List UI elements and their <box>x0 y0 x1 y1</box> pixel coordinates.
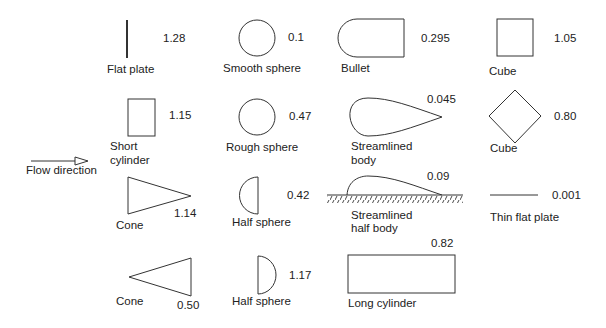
streamlined-body-value: 0.045 <box>427 93 456 106</box>
half-sphere-2-value: 1.17 <box>289 269 311 282</box>
cube-2-value: 0.80 <box>554 110 576 123</box>
smooth-sphere-value: 0.1 <box>288 31 304 44</box>
streamlined-half-body-label-line2: half body <box>351 222 398 235</box>
flat-plate-label: Flat plate <box>107 63 154 76</box>
flow-direction-label: Flow direction <box>26 164 97 177</box>
thin-flat-plate-label: Thin flat plate <box>490 211 559 224</box>
rough-sphere-label: Rough sphere <box>226 141 298 154</box>
cone-2-label: Cone <box>116 295 144 308</box>
streamlined-half-body-value: 0.09 <box>427 170 449 183</box>
short-cylinder-shape <box>128 99 155 136</box>
streamlined-half-body-label-line1: Streamlined <box>351 209 412 222</box>
short-cylinder-value: 1.15 <box>169 109 191 122</box>
streamlined-body-label-line1: Streamlined <box>351 140 412 153</box>
half-sphere-left-shape <box>240 177 258 214</box>
half-sphere-1-label: Half sphere <box>232 216 291 229</box>
long-cylinder-value: 0.82 <box>431 237 453 250</box>
streamlined-body-label-line2: body <box>351 154 376 167</box>
flat-plate-value: 1.28 <box>163 32 185 45</box>
smooth-sphere-shape <box>239 20 275 56</box>
cube-1-label: Cube <box>489 65 517 78</box>
short-cylinder-label-line2: cylinder <box>110 154 150 167</box>
cone-left-shape <box>129 258 191 296</box>
cone-1-label: Cone <box>116 219 144 232</box>
cube-diamond-shape <box>489 90 541 143</box>
bullet-value: 0.295 <box>421 32 450 45</box>
cube-1-value: 1.05 <box>554 32 576 45</box>
cube-2-label: Cube <box>490 142 518 155</box>
long-cylinder-shape <box>348 255 455 293</box>
cone-1-value: 1.14 <box>174 207 196 220</box>
half-sphere-1-value: 0.42 <box>287 189 309 202</box>
cube-square-shape <box>497 19 533 56</box>
bullet-shape <box>338 19 404 57</box>
rough-sphere-value: 0.47 <box>289 110 311 123</box>
half-sphere-right-shape <box>258 256 276 294</box>
smooth-sphere-label: Smooth sphere <box>223 62 301 75</box>
thin-flat-plate-value: 0.001 <box>552 189 581 202</box>
rough-sphere-shape <box>239 99 275 135</box>
long-cylinder-label: Long cylinder <box>348 297 416 310</box>
bullet-label: Bullet <box>341 62 370 75</box>
short-cylinder-label-line1: Short <box>110 140 138 153</box>
cone-2-value: 0.50 <box>177 299 199 312</box>
half-sphere-2-label: Half sphere <box>232 295 291 308</box>
